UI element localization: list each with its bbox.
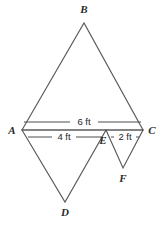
vertex-label-a: A — [7, 124, 15, 136]
geometry-figure: 6 ft 4 ft 2 ft A B C D E F — [0, 0, 161, 226]
dimension-label-2ft: 2 ft — [118, 131, 132, 142]
geometry-canvas: 6 ft 4 ft 2 ft A B C D E F — [0, 0, 161, 226]
triangle-abc — [22, 23, 143, 130]
vertex-label-f: F — [118, 172, 127, 184]
vertex-label-b: B — [79, 3, 87, 15]
vertex-label-c: C — [148, 124, 156, 136]
vertex-label-d: D — [60, 206, 69, 218]
dimension-label-4ft: 4 ft — [57, 131, 71, 142]
vertex-label-e: E — [98, 134, 106, 146]
dimension-label-6ft: 6 ft — [77, 116, 91, 127]
